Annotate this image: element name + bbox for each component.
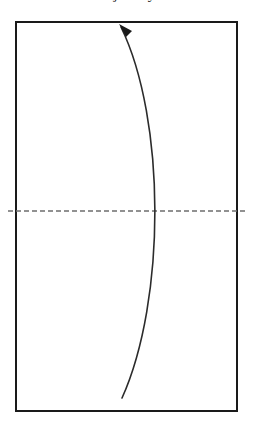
arrowhead-marker: [119, 24, 132, 37]
diagram-svg: [0, 0, 253, 432]
figure-canvas: trajectory: [0, 0, 253, 432]
rectangular-boundary: [16, 22, 237, 411]
curved-trajectory-arc: [121, 27, 155, 398]
